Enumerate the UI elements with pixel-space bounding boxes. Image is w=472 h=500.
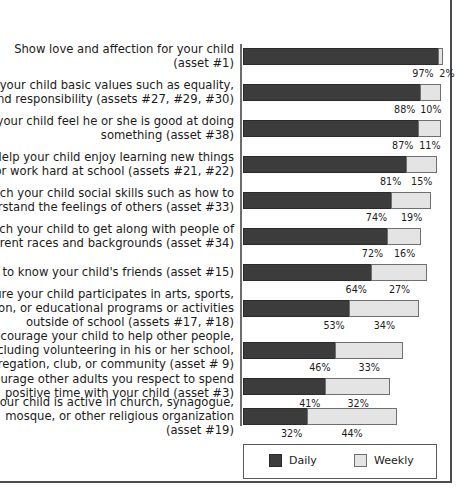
bar-segment-daily <box>243 300 350 317</box>
bar-track <box>243 300 419 317</box>
value-label-weekly: 16% <box>394 248 415 259</box>
bar-segment-daily <box>243 48 439 65</box>
stacked-bar-chart: Show love and affection for your child (… <box>0 0 472 500</box>
bar-segment-weekly <box>349 300 419 317</box>
value-label-daily: 72% <box>362 248 383 259</box>
category-label: Teach your child basic values such as eq… <box>0 78 234 106</box>
category-label: Encourage your child to help other peopl… <box>0 329 234 372</box>
legend-item-daily: Daily <box>269 454 317 467</box>
bar-segment-daily <box>243 120 419 137</box>
value-label-daily: 74% <box>366 212 387 223</box>
value-label-weekly: 44% <box>341 428 362 439</box>
bar-track <box>243 408 397 425</box>
value-label-daily: 97% <box>412 68 433 79</box>
bar-segment-daily <box>243 156 407 173</box>
bar-track <box>243 120 441 137</box>
bar-segment-weekly <box>335 342 403 359</box>
bar-segment-weekly <box>420 84 441 101</box>
bar-segment-weekly <box>438 48 443 65</box>
bar-segment-weekly <box>391 192 430 209</box>
bar-track <box>243 192 431 209</box>
value-label-weekly: 15% <box>411 176 432 187</box>
bar-track <box>243 342 403 359</box>
bar-track <box>243 156 437 173</box>
value-label-weekly: 11% <box>419 140 440 151</box>
value-label-daily: 81% <box>380 176 401 187</box>
bar-segment-weekly <box>371 264 427 281</box>
legend-swatch-weekly-icon <box>354 454 367 467</box>
value-label-weekly: 27% <box>389 284 410 295</box>
value-label-daily: 32% <box>281 428 302 439</box>
bar-track <box>243 48 443 65</box>
bar-segment-daily <box>243 408 308 425</box>
bar-segment-daily <box>243 342 336 359</box>
bar-track <box>243 264 427 281</box>
bar-segment-weekly <box>307 408 397 425</box>
bar-segment-weekly <box>418 120 441 137</box>
category-label: Ensure your child participates in arts, … <box>0 287 234 330</box>
legend-item-weekly: Weekly <box>354 454 414 467</box>
legend-label-weekly: Weekly <box>374 454 414 467</box>
value-label-daily: 64% <box>346 284 367 295</box>
category-label: Show love and affection for your child (… <box>0 42 234 70</box>
value-label-weekly: 33% <box>359 362 380 373</box>
category-label: Teach your child to get along with peopl… <box>0 222 234 250</box>
value-label-weekly: 19% <box>401 212 422 223</box>
bar-segment-weekly <box>406 156 437 173</box>
bar-segment-weekly <box>387 228 420 245</box>
bar-segment-daily <box>243 264 372 281</box>
chart-legend: Daily Weekly <box>243 444 437 479</box>
category-label: Ensure your child is active in church, s… <box>0 395 234 438</box>
bar-track <box>243 228 421 245</box>
bar-track <box>243 84 441 101</box>
value-label-daily: 88% <box>394 104 415 115</box>
bar-segment-daily <box>243 192 392 209</box>
bar-segment-daily <box>243 228 388 245</box>
value-label-weekly: 2% <box>439 68 454 79</box>
bar-segment-daily <box>243 378 326 395</box>
value-label-weekly: 10% <box>420 104 441 115</box>
value-label-weekly: 34% <box>374 320 395 331</box>
category-label: Help your child enjoy learning new thing… <box>0 150 234 178</box>
legend-label-daily: Daily <box>289 454 317 467</box>
category-label: Teach your child social skills such as h… <box>0 186 234 214</box>
value-label-daily: 53% <box>323 320 344 331</box>
value-label-daily: 87% <box>392 140 413 151</box>
category-label: Get to know your child's friends (asset … <box>0 265 234 279</box>
bar-segment-weekly <box>325 378 391 395</box>
bar-track <box>243 378 390 395</box>
category-label: Help your child feel he or she is good a… <box>0 114 234 142</box>
value-axis-line <box>240 44 242 426</box>
bar-segment-daily <box>243 84 421 101</box>
value-label-daily: 46% <box>309 362 330 373</box>
legend-swatch-daily-icon <box>269 454 282 467</box>
